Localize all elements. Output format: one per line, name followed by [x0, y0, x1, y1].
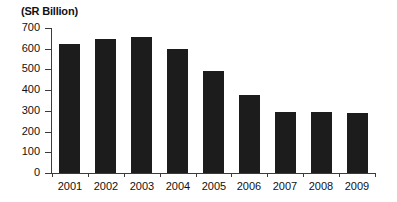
x-tick-mark — [339, 173, 340, 177]
x-tick-mark — [375, 173, 376, 177]
y-tick-label: 300 — [0, 105, 40, 116]
y-tick-mark — [45, 90, 51, 91]
y-tick-mark — [45, 49, 51, 50]
bar-2008 — [311, 112, 332, 173]
y-tick-mark — [45, 111, 51, 112]
x-tick-mark — [52, 173, 53, 177]
y-tick-label: 500 — [0, 63, 40, 74]
bar-2004 — [167, 49, 188, 173]
y-tick-mark — [45, 173, 51, 174]
y-tick-label: 200 — [0, 126, 40, 137]
y-tick-mark — [45, 69, 51, 70]
plot-area — [52, 28, 375, 173]
x-tick-mark — [267, 173, 268, 177]
x-tick-mark — [160, 173, 161, 177]
bar-2007 — [275, 112, 296, 173]
y-tick-mark — [45, 132, 51, 133]
y-tick-mark — [45, 152, 51, 153]
y-tick-label: 400 — [0, 84, 40, 95]
chart-title: (SR Billion) — [21, 5, 78, 17]
bar-2006 — [239, 95, 260, 173]
y-tick-label: 0 — [0, 167, 40, 178]
y-tick-label: 700 — [0, 22, 40, 33]
x-axis-line — [51, 173, 376, 174]
bar-2009 — [347, 113, 368, 173]
y-tick-label: 100 — [0, 146, 40, 157]
bar-2002 — [95, 39, 116, 173]
x-tick-mark — [88, 173, 89, 177]
x-tick-mark — [196, 173, 197, 177]
x-tick-label-2009: 2009 — [335, 180, 379, 192]
bar-chart: (SR Billion) 7006005004003002001000 2001… — [0, 0, 397, 202]
x-tick-mark — [124, 173, 125, 177]
bar-2001 — [59, 44, 80, 173]
bar-2005 — [203, 71, 224, 173]
bar-2003 — [131, 37, 152, 173]
x-tick-mark — [231, 173, 232, 177]
y-tick-mark — [45, 28, 51, 29]
y-tick-label: 600 — [0, 43, 40, 54]
x-tick-mark — [303, 173, 304, 177]
